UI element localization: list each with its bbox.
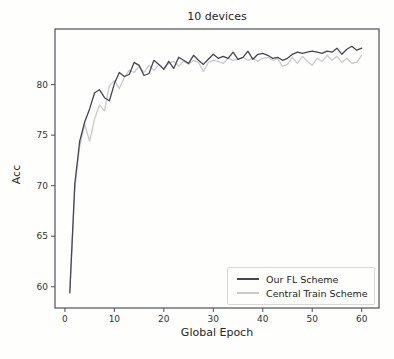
x-tick-label: 0 <box>62 314 68 324</box>
x-tick-label: 20 <box>158 314 170 324</box>
x-tick-label: 60 <box>356 314 368 324</box>
y-tick-label: 75 <box>37 130 48 140</box>
line-chart-figure: 10 devices 01020304050606065707580 Acc G… <box>0 0 394 359</box>
central-train-scheme-line <box>70 55 362 290</box>
x-tick-label: 30 <box>208 314 220 324</box>
legend-item-central-train-scheme: Central Train Scheme <box>237 288 374 299</box>
y-tick-label: 70 <box>37 181 49 191</box>
y-tick-label: 60 <box>37 282 49 292</box>
legend: Our FL Scheme Central Train Scheme <box>227 267 375 305</box>
x-tick-label: 40 <box>257 314 269 324</box>
x-tick-label: 10 <box>109 314 121 324</box>
y-tick-label: 65 <box>37 231 48 241</box>
x-axis-label: Global Epoch <box>55 326 379 339</box>
y-tick-label: 80 <box>37 80 49 90</box>
legend-label: Our FL Scheme <box>266 274 338 285</box>
legend-item-our-fl-scheme: Our FL Scheme <box>237 274 374 285</box>
legend-line-swatch <box>237 292 259 294</box>
y-axis-label: Acc <box>10 155 23 195</box>
legend-line-swatch <box>237 278 259 280</box>
x-tick-label: 50 <box>306 314 318 324</box>
our-fl-scheme-line <box>70 46 362 293</box>
legend-label: Central Train Scheme <box>266 288 368 299</box>
plot-area: 01020304050606065707580 <box>0 0 394 359</box>
